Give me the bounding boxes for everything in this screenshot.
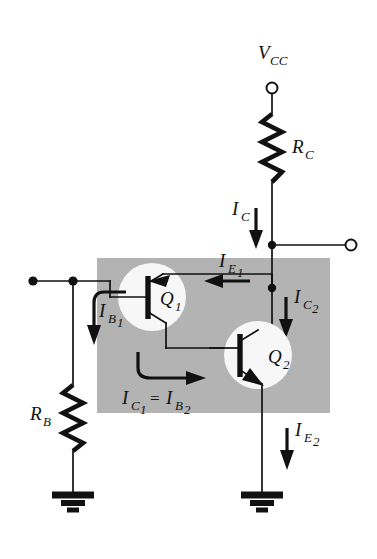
ie2-label-main: I (294, 419, 303, 440)
circuit-schematic-canvas: I C V CC R C I E 1 I C 2 (0, 0, 377, 559)
rc-label-main: R (291, 136, 304, 157)
ic1-label-sub: C (131, 398, 140, 413)
rb-label-main: R (29, 403, 42, 424)
ground-left (52, 495, 94, 510)
ie2-current-arrow (280, 428, 294, 470)
output-terminal[interactable] (346, 240, 357, 251)
ground-right (241, 495, 283, 510)
ie2-label-sub: E (303, 430, 312, 445)
ie1-label-sub2: 1 (237, 265, 244, 280)
ic-label-main: I (231, 198, 240, 219)
circuit-diagram-figure: I C V CC R C I E 1 I C 2 (0, 0, 377, 559)
ic2-label-sub: C (303, 297, 312, 312)
ib2-label-sub: B (175, 398, 183, 413)
rc-resistor-symbol (262, 114, 282, 182)
ic-label-sub: C (241, 209, 250, 224)
ib1-label-sub2: 1 (117, 315, 124, 330)
ic1-label-sub2: 1 (140, 402, 147, 417)
rc-label-sub: C (305, 147, 314, 162)
ie2-label-sub2: 2 (313, 434, 320, 449)
q1-label-sub: 1 (175, 299, 182, 314)
vcc-label-sub: CC (270, 53, 288, 68)
ib2-label-sub2: 2 (184, 402, 191, 417)
vcc-terminal[interactable] (267, 83, 278, 94)
q1-label-main: Q (160, 288, 174, 309)
ic1-ib2-equals: = (150, 389, 160, 408)
ic2-label-sub2: 2 (312, 301, 319, 316)
q2-label-main: Q (268, 346, 282, 367)
rb-label-sub: B (43, 414, 51, 429)
q2-label-sub: 2 (283, 357, 290, 372)
rb-resistor-symbol (63, 385, 83, 451)
ic-current-arrow (249, 208, 263, 249)
ib1-label-sub: B (108, 311, 116, 326)
